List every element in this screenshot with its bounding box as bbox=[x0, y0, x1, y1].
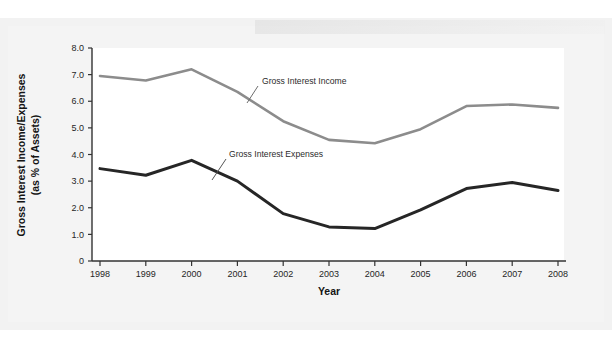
series-label-gross-interest-income: Gross Interest Income bbox=[262, 76, 347, 86]
y-tick-label: 0 bbox=[79, 256, 84, 266]
y-tick-label: 6.0 bbox=[71, 96, 84, 106]
y-tick-label: 1.0 bbox=[71, 230, 84, 240]
x-tick-label: 2001 bbox=[227, 269, 247, 279]
x-tick-label: 2008 bbox=[548, 269, 568, 279]
chart-figure: 8.07.06.05.04.03.02.01.00 19981999200020… bbox=[0, 0, 612, 348]
line-chart: 8.07.06.05.04.03.02.01.00 19981999200020… bbox=[0, 0, 612, 348]
y-tick-label: 7.0 bbox=[71, 70, 84, 80]
x-tick-label: 2004 bbox=[365, 269, 385, 279]
y-tick-label: 2.0 bbox=[71, 203, 84, 213]
x-tick-label: 1999 bbox=[136, 269, 156, 279]
x-tick-label: 1998 bbox=[90, 269, 110, 279]
x-axis-ticks: 1998199920002001200220032004200520062007… bbox=[90, 261, 568, 279]
y-tick-label: 3.0 bbox=[71, 176, 84, 186]
y-axis-title-line2: (as % of Assets) bbox=[29, 115, 41, 196]
y-tick-label: 8.0 bbox=[71, 43, 84, 53]
x-tick-label: 2002 bbox=[273, 269, 293, 279]
x-tick-label: 2006 bbox=[456, 269, 476, 279]
y-axis-title-line1: Gross Interest Income/Expenses bbox=[15, 73, 27, 236]
y-axis-title: Gross Interest Income/Expenses (as % of … bbox=[15, 73, 41, 236]
series-line-gross-interest-expenses bbox=[100, 160, 558, 228]
x-tick-label: 2007 bbox=[502, 269, 522, 279]
x-axis-title: Year bbox=[318, 285, 340, 297]
x-tick-label: 2005 bbox=[411, 269, 431, 279]
y-tick-label: 5.0 bbox=[71, 123, 84, 133]
y-axis-ticks: 8.07.06.05.04.03.02.01.00 bbox=[71, 43, 92, 266]
data-series-group bbox=[100, 69, 558, 228]
series-label-gross-interest-expenses: Gross Interest Expenses bbox=[229, 149, 323, 159]
x-tick-label: 2000 bbox=[182, 269, 202, 279]
y-tick-label: 4.0 bbox=[71, 150, 84, 160]
x-tick-label: 2003 bbox=[319, 269, 339, 279]
